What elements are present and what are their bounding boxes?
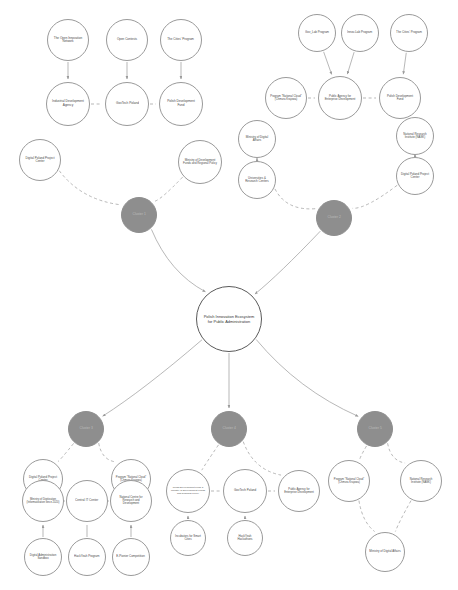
diagram-canvas: The Open Innovation NetworkOpen Contests… bbox=[0, 0, 458, 590]
node-public-agency-enterprise-top[interactable]: Public Agency for Enterprise Development bbox=[318, 76, 362, 120]
edge-cluster-bottom-right-to-program-national-cloud-br bbox=[360, 446, 367, 460]
node-digital-poland-project-center-right[interactable]: Digital Poland Project Center bbox=[396, 157, 434, 195]
node-cities-program-right[interactable]: The Cities' Program bbox=[390, 14, 428, 52]
node-label: HackYeah Hackathons bbox=[229, 535, 260, 541]
node-hackyeah-program[interactable]: HackYeah Program bbox=[68, 538, 106, 576]
node-ministry-digital-affairs-top[interactable]: Ministry of Digital Affairs bbox=[238, 120, 276, 158]
edge-digital-poland-project-center-left-to-cluster-left bbox=[59, 171, 120, 205]
edge-national-research-institute-br-to-ministry-digital-affairs-br bbox=[395, 501, 411, 532]
node-label: Open Contests bbox=[115, 38, 139, 41]
node-label: Gov_Lab Program bbox=[303, 31, 331, 34]
node-label: Digital Poland Project Center bbox=[22, 157, 59, 163]
node-label: The Cities' Program bbox=[394, 31, 424, 34]
node-gov-lab-program[interactable]: Gov_Lab Program bbox=[298, 14, 336, 52]
node-label: Ministry of Development Funds and Region… bbox=[181, 159, 220, 165]
edge-cities-program-right-to-polish-development-fund-right bbox=[403, 53, 406, 74]
node-cities-program[interactable]: The Cities' Program bbox=[160, 19, 202, 61]
node-label: Cluster 4 bbox=[221, 427, 238, 430]
node-universities-research-centers[interactable]: Universities & Research Centers bbox=[238, 161, 276, 199]
node-innov-lab-program[interactable]: Innov-Lab Program bbox=[341, 14, 379, 52]
node-national-research-institute-br[interactable]: National Research Institute (NASK) bbox=[400, 460, 442, 502]
node-label: GovTech Poland bbox=[232, 489, 258, 492]
node-label: Industrial Development Agency bbox=[49, 101, 88, 108]
node-label: Digital Administration Sandbox bbox=[26, 554, 59, 560]
node-label: E-Pionier Competition bbox=[115, 555, 147, 558]
edge-center-ecosystem-to-cluster-bottom-right bbox=[256, 339, 358, 416]
node-label: Innov-Lab Program bbox=[346, 31, 375, 34]
edge-cluster-bottom-left-to-digital-poland-project-center-bl bbox=[58, 443, 74, 461]
node-program-national-cloud-top[interactable]: Program "National Cloud" (Chmura Krajowa… bbox=[265, 77, 307, 119]
node-pdf-ministry-development[interactable]: Polish Development Fund & Ministry of De… bbox=[166, 469, 210, 513]
edge-program-national-cloud-br-to-ministry-digital-affairs-br bbox=[359, 501, 375, 532]
node-label: Polish Development Fund bbox=[382, 95, 419, 101]
node-label: Polish Innovation Ecosystem for Public A… bbox=[200, 315, 259, 323]
node-polish-development-fund-top[interactable]: Polish Development Fund bbox=[159, 82, 203, 126]
node-program-national-cloud-br[interactable]: Program "National Cloud" (Chmura Krajowa… bbox=[328, 460, 370, 502]
node-open-contests[interactable]: Open Contests bbox=[106, 19, 148, 61]
node-label: Incubators for Smart Cities bbox=[172, 535, 203, 541]
edge-cluster-bottom-left-to-program-national-cloud-bl bbox=[99, 443, 116, 462]
node-cluster-bottom-left[interactable]: Cluster 3 bbox=[68, 411, 104, 447]
node-digital-poland-project-center-left[interactable]: Digital Poland Project Center bbox=[19, 139, 61, 181]
node-label: HackYeah Program bbox=[72, 555, 101, 558]
node-label: National Research Institute (NASK) bbox=[398, 133, 431, 139]
node-central-it-center[interactable]: Central IT Center bbox=[66, 480, 108, 522]
edge-ministry-development-funds-to-cluster-left bbox=[155, 177, 183, 201]
node-incubators-smart-cities[interactable]: Incubators for Smart Cities bbox=[170, 520, 206, 556]
node-label: Cluster 5 bbox=[367, 427, 384, 430]
node-national-research-institute-top[interactable]: National Research Institute (NASK) bbox=[396, 117, 434, 155]
node-label: Ministry of Digital Affairs bbox=[240, 136, 273, 142]
node-label: Program "National Cloud" (Chmura Krajowa… bbox=[268, 95, 305, 101]
node-label: Public Agency for Enterprise Development bbox=[281, 488, 318, 494]
node-e-pionier-competition[interactable]: E-Pionier Competition bbox=[112, 538, 150, 576]
edge-cluster-bottom-right-to-national-research-institute-br bbox=[388, 443, 406, 463]
node-center-ecosystem[interactable]: Polish Innovation Ecosystem for Public A… bbox=[196, 286, 262, 352]
node-label: Ministry of Digitization (Informatizatio… bbox=[25, 498, 62, 504]
node-label: Central IT Center bbox=[74, 499, 101, 502]
node-cluster-left[interactable]: Cluster 1 bbox=[121, 197, 157, 233]
node-label: Ministry of Digital Affairs bbox=[368, 550, 403, 553]
node-label: National Centre for Research and Develop… bbox=[113, 497, 150, 506]
node-label: Cluster 3 bbox=[78, 427, 95, 430]
edge-gov-lab-program-to-public-agency-enterprise-top bbox=[324, 52, 332, 75]
node-label: Universities & Research Centers bbox=[240, 177, 273, 183]
edge-cluster-bottom-center-to-pdf-ministry-development bbox=[202, 445, 219, 470]
node-govtech-poland-top[interactable]: GovTech Poland bbox=[105, 82, 149, 126]
node-label: The Cities' Program bbox=[166, 38, 196, 41]
node-label: The Open Innovation Network bbox=[50, 37, 87, 43]
node-industrial-development-agency[interactable]: Industrial Development Agency bbox=[46, 82, 90, 126]
node-ministry-digitization[interactable]: Ministry of Digitization (Informatizatio… bbox=[22, 480, 64, 522]
node-public-agency-enterprise-bottom[interactable]: Public Agency for Enterprise Development bbox=[278, 470, 320, 512]
node-digital-administration-sandbox[interactable]: Digital Administration Sandbox bbox=[24, 538, 62, 576]
node-label: Cluster 2 bbox=[326, 216, 343, 219]
node-cluster-right[interactable]: Cluster 2 bbox=[316, 200, 352, 236]
node-label: National Research Institute (NASK) bbox=[403, 478, 440, 484]
edge-cluster-left-to-center-ecosystem bbox=[151, 229, 205, 291]
edge-digital-poland-project-center-right-to-cluster-right bbox=[353, 185, 398, 208]
node-open-innovation-network[interactable]: The Open Innovation Network bbox=[47, 19, 89, 61]
node-label: Polish Development Fund & Ministry of De… bbox=[169, 487, 208, 495]
node-label: Cluster 1 bbox=[131, 213, 148, 216]
edge-innov-lab-program-to-public-agency-enterprise-top bbox=[347, 52, 354, 74]
edge-universities-research-centers-to-cluster-right bbox=[275, 189, 315, 209]
node-label: Public Agency for Enterprise Development bbox=[321, 95, 360, 101]
node-ministry-development-funds[interactable]: Ministry of Development Funds and Region… bbox=[178, 140, 222, 184]
node-ministry-digital-affairs-br[interactable]: Ministry of Digital Affairs bbox=[365, 532, 405, 572]
node-hackyeah-hackathons[interactable]: HackYeah Hackathons bbox=[227, 520, 263, 556]
node-label: Polish Development Fund bbox=[162, 101, 201, 108]
node-national-centre-research-development[interactable]: National Centre for Research and Develop… bbox=[110, 480, 152, 522]
node-cluster-bottom-center[interactable]: Cluster 4 bbox=[211, 411, 247, 447]
node-govtech-poland-bottom[interactable]: GovTech Poland bbox=[223, 469, 267, 513]
edge-center-ecosystem-to-cluster-bottom-left bbox=[103, 340, 202, 416]
node-label: Program "National Cloud" (Chmura Krajowa… bbox=[331, 478, 368, 484]
node-cluster-bottom-right[interactable]: Cluster 5 bbox=[357, 411, 393, 447]
node-polish-development-fund-right[interactable]: Polish Development Fund bbox=[379, 77, 421, 119]
node-label: GovTech Poland bbox=[114, 102, 141, 105]
edge-cluster-right-to-center-ecosystem bbox=[255, 231, 320, 294]
node-label: Digital Poland Project Center bbox=[398, 173, 431, 179]
